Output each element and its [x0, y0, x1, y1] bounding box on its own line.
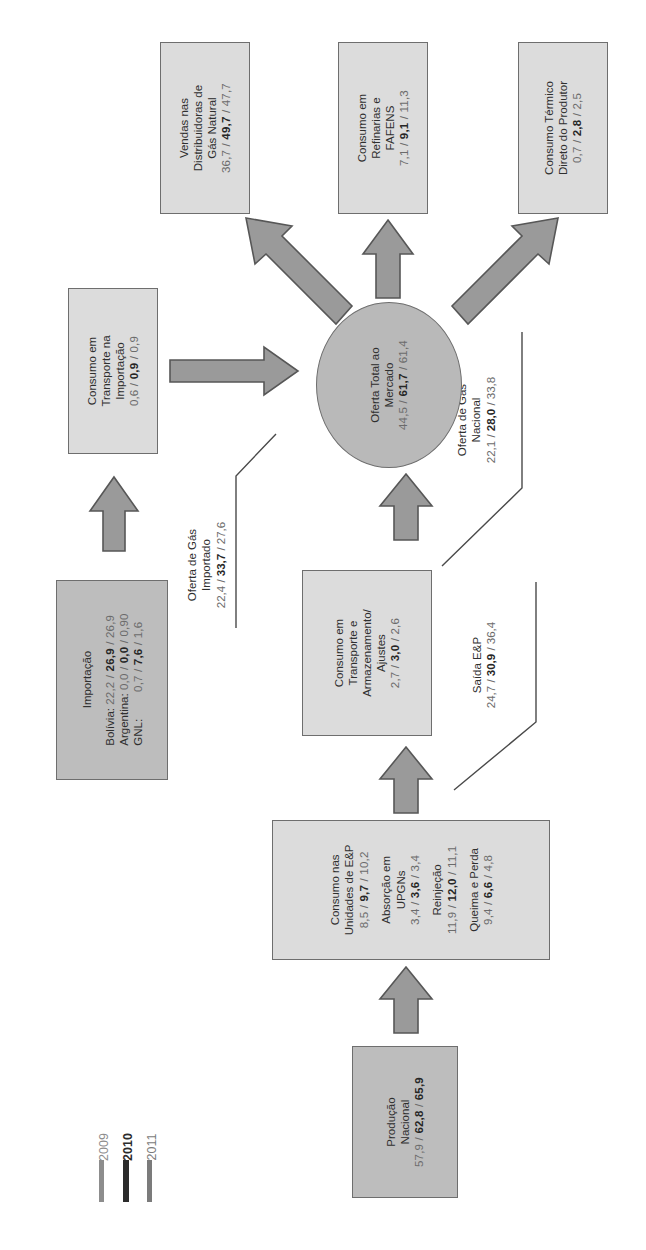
node-title-line-1: Consumo em [332, 609, 346, 697]
node-values: 36,7 / 49,7 / 47,7 [219, 83, 233, 173]
legend: 2009 2010 2011 [92, 1082, 182, 1202]
node-producao-nacional[interactable]: Produção Nacional 57,9 / 62,8 / 65,9 [352, 1046, 458, 1198]
node-title-line-3: Armazenamento/ [360, 609, 374, 697]
group2-line-2: UPGNs [393, 845, 407, 936]
legend-swatch-2009 [99, 1160, 104, 1202]
group2-values: 3,4 / 3,6 / 3,4 [407, 845, 421, 936]
node-title-line-2: Nacional [398, 1077, 412, 1167]
arrow-producao-to-consumo-ep [378, 965, 434, 1035]
node-title-line-1: Consumo em [85, 335, 99, 406]
group2-line-1: Absorção em [378, 845, 392, 936]
arrow-transporte-to-oferta-total [378, 472, 434, 542]
node-values: 57,9 / 62,8 / 65,9 [412, 1077, 426, 1167]
node-title-line-1: Vendas nas [177, 83, 191, 173]
flow-label-title-2: Nacional [469, 335, 483, 505]
node-producao-nacional-text: Produção Nacional 57,9 / 62,8 / 65,9 [384, 1077, 426, 1167]
node-title-line-3: FAFENS [383, 90, 397, 166]
flow-label-saida-ep: Saída E&P 24,7 / 30,9 / 36,4 [470, 580, 510, 750]
node-title-line-3: Importação [113, 335, 127, 406]
group4-values: 9,4 / 6,6 / 4,8 [480, 845, 494, 936]
node-title-line-1: Consumo Térmico [542, 81, 556, 175]
node-consumo-transporte-armazenamento[interactable]: Consumo em Transporte e Armazenamento/ A… [302, 570, 432, 736]
legend-item-2010: 2010 [116, 1082, 138, 1202]
node-title-line-2: Direto do Produtor [556, 81, 570, 175]
node-title-line-4: Ajustes [374, 609, 388, 697]
row-values: 22,2 / 26,9 / 26,9 [103, 615, 115, 705]
arrow-importacao-to-oferta-total [168, 345, 300, 397]
flow-label-oferta-gas-importado: Oferta de Gás Importado 22,4 / 33,7 / 27… [185, 480, 225, 650]
flow-label-title: Oferta de Gás [185, 480, 199, 650]
flow-label-values: 22,4 / 33,7 / 27,6 [214, 480, 228, 650]
node-consumo-unidades-ep-text: Consumo nas Unidades de E&P 8,5 / 9,7 / … [327, 845, 495, 936]
leader-oferta-gas-importado [222, 432, 282, 630]
node-title-line-2: Mercado [382, 340, 396, 430]
node-vendas-distribuidoras[interactable]: Vendas nas Distribuidoras de Gás Natural… [160, 42, 250, 214]
node-title-line-2: Transporte e [346, 609, 360, 697]
node-importacao-text: Importação Bolívia: 22,2 / 26,9 / 26,9 A… [79, 614, 144, 746]
node-title-line-3: Gás Natural [205, 83, 219, 173]
node-title-line-2: Refinarias e [369, 90, 383, 166]
legend-swatch-2011 [147, 1160, 152, 1202]
node-importacao[interactable]: Importação Bolívia: 22,2 / 26,9 / 26,9 A… [56, 580, 168, 780]
group4-line-1: Queima e Perda [466, 845, 480, 936]
group3-line-1: Reinjeção [429, 845, 443, 936]
node-oferta-total-text: Oferta Total ao Mercado 44,5 / 61,7 / 61… [368, 340, 410, 430]
node-title-line-1: Oferta Total ao [368, 340, 382, 430]
node-values: 2,7 / 3,0 / 2,6 [388, 609, 402, 697]
node-vendas-distribuidoras-text: Vendas nas Distribuidoras de Gás Natural… [177, 83, 233, 173]
row-label: GNL: [132, 719, 144, 746]
group1-line-2: Unidades de E&P [341, 845, 355, 936]
flow-label-title-2: Importado [199, 480, 213, 650]
legend-item-2009: 2009 [92, 1082, 114, 1202]
arrow-oferta-to-refinarias [361, 218, 415, 300]
legend-item-2011: 2011 [140, 1082, 162, 1202]
node-values: 0,6 / 0,9 / 0,9 [127, 335, 141, 406]
node-consumo-refinarias-text: Consumo em Refinarias e FAFENS 7,1 / 9,1… [355, 90, 411, 166]
node-consumo-transporte-armazenamento-text: Consumo em Transporte e Armazenamento/ A… [332, 609, 402, 697]
row-label: Bolívia: [103, 708, 115, 746]
flow-label-values: 22,1 / 28,0 / 33,8 [484, 335, 498, 505]
row-values: 0,0 / 0,0 / 0,90 [118, 614, 130, 691]
node-consumo-transporte-importacao-text: Consumo em Transporte na Importação 0,6 … [85, 335, 141, 406]
arrow-oferta-to-vendas-distribuidoras [240, 212, 360, 332]
row-label: Argentina: [118, 694, 130, 746]
node-consumo-unidades-ep[interactable]: Consumo nas Unidades de E&P 8,5 / 9,7 / … [272, 820, 550, 960]
node-title: Importação [79, 614, 93, 746]
node-consumo-transporte-importacao[interactable]: Consumo em Transporte na Importação 0,6 … [68, 288, 158, 454]
group1-values: 8,5 / 9,7 / 10,2 [356, 845, 370, 936]
node-row-argentina: Argentina: 0,0 / 0,0 / 0,90 [117, 614, 131, 746]
node-oferta-total-ao-mercado[interactable]: Oferta Total ao Mercado 44,5 / 61,7 / 61… [316, 302, 462, 468]
node-consumo-termico[interactable]: Consumo Térmico Direto do Produtor 0,7 /… [518, 42, 608, 214]
flow-label-title: Saída E&P [470, 580, 484, 750]
node-values: 44,5 / 61,7 / 61,4 [396, 340, 410, 430]
group3-values: 11,9 / 12,0 / 11,1 [444, 845, 458, 936]
node-values: 0,7 / 2,8 / 2,5 [570, 81, 584, 175]
row-values: 0,7 / 7,6 / 1,6 [132, 622, 144, 716]
node-title-line-2: Transporte na [99, 335, 113, 406]
flow-label-values: 24,7 / 30,9 / 36,4 [484, 580, 498, 750]
flow-label-oferta-gas-nacional: Oferta de Gás Nacional 22,1 / 28,0 / 33,… [455, 335, 495, 505]
node-row-gnl: GNL: 0,7 / 7,6 / 1,6 [131, 614, 145, 746]
legend-swatch-2010 [123, 1160, 129, 1202]
node-consumo-termico-text: Consumo Térmico Direto do Produtor 0,7 /… [542, 81, 584, 175]
arrow-consumo-ep-to-transporte [378, 745, 434, 815]
node-title-line-2: Distribuidoras de [191, 83, 205, 173]
arrow-oferta-to-consumo-termico [444, 212, 564, 332]
node-row-bolivia: Bolívia: 22,2 / 26,9 / 26,9 [102, 614, 116, 746]
diagram-canvas: Oferta de Gás Importado 22,4 / 33,7 / 27… [0, 0, 646, 1250]
node-consumo-refinarias[interactable]: Consumo em Refinarias e FAFENS 7,1 / 9,1… [338, 42, 428, 214]
node-title-line-1: Produção [384, 1077, 398, 1167]
node-title-line-1: Consumo em [355, 90, 369, 166]
group1-line-1: Consumo nas [327, 845, 341, 936]
arrow-importacao-to-consumo-transporte-importacao [88, 475, 140, 553]
node-values: 7,1 / 9,1 / 11,3 [397, 90, 411, 166]
